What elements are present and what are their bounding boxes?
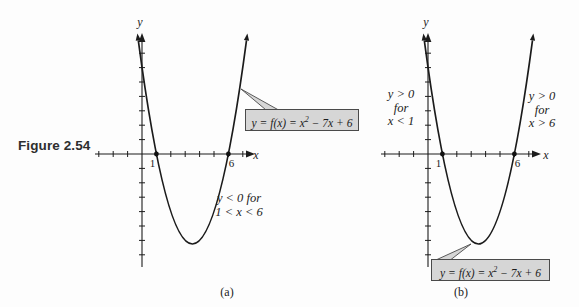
panel-b-tick-label-6: 6 (515, 157, 521, 169)
panel-b-left-region-annotation: y > 0 for x < 1 (377, 88, 425, 129)
panel-a-tick-label-6: 6 (229, 157, 235, 169)
panel-a-x-axis-label: x (252, 148, 259, 162)
panel-b-callout-pre: y = f(x) = x (440, 267, 493, 279)
panel-b-y-axis-arrow-icon (425, 33, 432, 42)
panel-b-tick-label-1: 1 (436, 157, 442, 169)
panel-a-tick-label-1: 1 (150, 157, 156, 169)
panel-b-caption: (b) (446, 285, 476, 300)
panel-a-negative-region-annotation: y < 0 for 1 < x < 6 (206, 192, 272, 219)
panel-b-left-annotation-line1: y > 0 (377, 88, 425, 102)
panel-a-function-callout: y = f(x) = x2 − 7x + 6 (245, 109, 359, 131)
panel-b-right-annotation-line3: x > 6 (518, 117, 566, 131)
panel-b-callout-post: − 7x + 6 (497, 267, 541, 279)
panel-b-right-region-annotation: y > 0 for x > 6 (518, 90, 566, 131)
panel-b-parabola-curve (424, 40, 532, 244)
figure-2-54: Figure 2.54 (0, 0, 579, 307)
panel-b-right-annotation-line1: y > 0 (518, 90, 566, 104)
panel-a-annotation-line2: 1 < x < 6 (206, 206, 272, 220)
panel-a-intercept-dot-1 (154, 152, 159, 157)
panel-b-y-axis-label: y (422, 15, 429, 29)
panel-b-x-axis-label: x (542, 148, 549, 162)
panel-a-intercept-dot-6 (226, 152, 231, 157)
panel-a-curve-right-arrow-icon (244, 34, 249, 41)
panel-a-curve-left-arrow-icon (136, 34, 141, 41)
panel-b-curve-right-arrow-icon (530, 34, 535, 41)
panel-a-callout-pre: y = f(x) = x (252, 117, 305, 129)
panel-b-right-annotation-line2: for (518, 104, 566, 118)
panel-a-annotation-line1: y < 0 for (206, 192, 272, 206)
panel-b-curve-left-arrow-icon (422, 34, 427, 41)
panel-b-intercept-dot-1 (440, 152, 445, 157)
panel-b-plot: x y 1 6 (375, 10, 579, 280)
panel-a-y-axis-arrow-icon (139, 33, 146, 42)
panel-a-plot: x y 1 6 (95, 10, 365, 280)
panel-a-callout-pointer (241, 89, 280, 111)
panel-b-intercept-dot-6 (512, 152, 517, 157)
panel-b-function-callout: y = f(x) = x2 − 7x + 6 (431, 259, 550, 281)
panel-b-x-axis-arrow-icon (532, 151, 541, 158)
panel-b-callout-pointer (437, 244, 471, 260)
panel-a-caption: (a) (212, 285, 242, 300)
panel-b-left-annotation-line3: x < 1 (377, 115, 425, 129)
panel-b-left-annotation-line2: for (377, 102, 425, 116)
figure-label: Figure 2.54 (18, 138, 90, 153)
panel-a-callout-post: − 7x + 6 (309, 117, 353, 129)
panel-a-y-axis-label: y (136, 15, 143, 29)
